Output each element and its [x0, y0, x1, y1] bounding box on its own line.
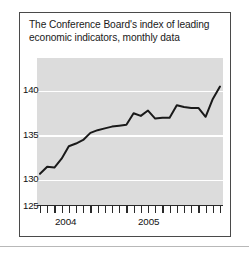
x-axis-tick: [206, 206, 207, 213]
x-axis-tick: [213, 206, 214, 213]
y-axis-label-130: 130: [23, 173, 38, 184]
x-axis-tick: [134, 206, 135, 213]
x-axis-tick: [112, 206, 113, 213]
x-axis-tick: [177, 206, 178, 213]
x-axis-tick: [141, 206, 142, 213]
x-axis-tick: [76, 206, 77, 213]
x-axis-tick: [54, 206, 55, 213]
x-axis-tick: [184, 206, 185, 213]
x-axis-tick: [105, 206, 106, 213]
x-axis-tick: [98, 206, 99, 213]
plot-area: [37, 58, 223, 205]
bottom-divider: [0, 246, 249, 247]
chart-title-line-1: The Conference Board's index of leading: [29, 19, 209, 30]
chart-figure: The Conference Board's index of leading …: [0, 0, 249, 253]
chart-title: The Conference Board's index of leading …: [29, 18, 225, 44]
x-axis-baseline: [37, 205, 223, 206]
x-axis-tick: [126, 206, 127, 213]
x-axis-tick: [191, 206, 192, 213]
chart-title-line-2: economic indicators, monthly data: [29, 32, 180, 43]
x-axis: [37, 205, 223, 215]
y-axis-label-135: 135: [23, 129, 38, 140]
x-axis-tick: [155, 206, 156, 213]
x-axis-tick: [47, 206, 48, 213]
y-axis-label-140: 140: [23, 84, 38, 95]
x-axis-tick: [69, 206, 70, 213]
x-axis-tick: [40, 206, 41, 213]
figure-border: The Conference Board's index of leading …: [19, 12, 231, 237]
x-axis-label-2004: 2004: [55, 216, 76, 227]
x-axis-tick: [198, 206, 199, 213]
x-axis-tick: [90, 206, 91, 213]
x-axis-tick: [170, 206, 171, 213]
x-axis-tick: [220, 206, 221, 213]
x-axis-tick: [62, 206, 63, 213]
x-axis-label-2005: 2005: [138, 216, 159, 227]
x-axis-tick: [162, 206, 163, 213]
x-axis-tick: [119, 206, 120, 213]
x-axis-tick: [148, 206, 149, 213]
x-axis-tick: [83, 206, 84, 213]
data-line-series: [37, 58, 223, 205]
